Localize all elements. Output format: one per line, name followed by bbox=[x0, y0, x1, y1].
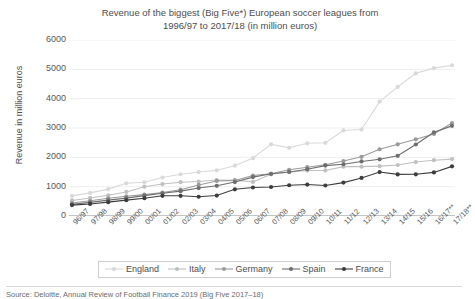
data-point bbox=[197, 170, 201, 174]
footnote-text: Source: Deloitte, Annual Review of Footb… bbox=[6, 290, 462, 299]
data-point bbox=[269, 172, 273, 176]
series-france bbox=[70, 164, 454, 207]
data-point bbox=[341, 128, 345, 132]
data-point bbox=[233, 180, 237, 184]
y-tick-label: 4000 bbox=[20, 93, 66, 103]
data-point bbox=[124, 181, 128, 185]
data-point bbox=[106, 200, 110, 204]
data-point bbox=[414, 142, 418, 146]
legend-swatch-icon bbox=[168, 265, 186, 273]
legend-label: Spain bbox=[303, 264, 326, 274]
footer-divider bbox=[6, 286, 462, 287]
data-point bbox=[178, 180, 182, 184]
data-point bbox=[359, 127, 363, 131]
legend-label: France bbox=[356, 264, 384, 274]
data-point bbox=[251, 180, 255, 184]
y-tick-label: 5000 bbox=[20, 63, 66, 73]
y-tick-label: 0 bbox=[20, 210, 66, 220]
data-point bbox=[378, 164, 382, 168]
data-point bbox=[88, 191, 92, 195]
chart-title-line-1: Revenue of the biggest (Big Five*) Europ… bbox=[50, 6, 430, 19]
data-point bbox=[341, 181, 345, 185]
data-point bbox=[396, 163, 400, 167]
data-point bbox=[287, 183, 291, 187]
data-point bbox=[215, 184, 219, 188]
legend-swatch-icon bbox=[282, 265, 300, 273]
chart-title: Revenue of the biggest (Big Five*) Europ… bbox=[50, 6, 430, 32]
data-point bbox=[251, 175, 255, 179]
legend-item-germany[interactable]: Germany bbox=[215, 264, 273, 274]
data-point bbox=[287, 170, 291, 174]
series-line bbox=[72, 65, 452, 196]
data-point bbox=[178, 194, 182, 198]
data-point bbox=[287, 146, 291, 150]
data-point bbox=[305, 182, 309, 186]
data-point bbox=[70, 194, 74, 198]
data-point bbox=[269, 142, 273, 146]
x-axis-tick-labels: 96/9797/9898/9999/0000/0101/0202/0303/04… bbox=[69, 218, 459, 258]
data-point bbox=[197, 195, 201, 199]
data-point bbox=[70, 203, 74, 207]
data-point bbox=[233, 164, 237, 168]
data-point bbox=[323, 168, 327, 172]
data-point bbox=[432, 158, 436, 162]
series-line bbox=[72, 159, 452, 200]
data-point bbox=[450, 124, 454, 128]
legend-item-spain[interactable]: Spain bbox=[282, 264, 326, 274]
data-point bbox=[414, 71, 418, 75]
series-canvas bbox=[69, 40, 455, 216]
data-point bbox=[378, 147, 382, 151]
chart-title-line-2: 1996/97 to 2017/18 (in million euros) bbox=[50, 19, 430, 32]
data-point bbox=[323, 164, 327, 168]
data-point bbox=[450, 164, 454, 168]
chart-legend: EnglandItalyGermanySpainFrance bbox=[98, 261, 391, 278]
data-point bbox=[359, 159, 363, 163]
y-tick-label: 3000 bbox=[20, 122, 66, 132]
data-point bbox=[160, 175, 164, 179]
data-point bbox=[197, 186, 201, 190]
data-point bbox=[178, 189, 182, 193]
legend-label: England bbox=[126, 264, 159, 274]
data-point bbox=[142, 196, 146, 200]
plot-area bbox=[69, 40, 455, 216]
data-point bbox=[178, 172, 182, 176]
data-point bbox=[323, 183, 327, 187]
y-tick-label: 6000 bbox=[20, 34, 66, 44]
y-tick-label: 2000 bbox=[20, 151, 66, 161]
data-point bbox=[414, 137, 418, 141]
data-point bbox=[414, 172, 418, 176]
data-point bbox=[432, 66, 436, 70]
y-axis-tick-labels: 0100020003000400050006000 bbox=[14, 40, 66, 216]
legend-item-italy[interactable]: Italy bbox=[168, 264, 206, 274]
data-point bbox=[359, 176, 363, 180]
data-point bbox=[160, 182, 164, 186]
data-point bbox=[378, 100, 382, 104]
legend-swatch-icon bbox=[105, 265, 123, 273]
data-point bbox=[251, 156, 255, 160]
series-line bbox=[72, 166, 452, 205]
y-tick-label: 1000 bbox=[20, 181, 66, 191]
legend-item-england[interactable]: England bbox=[105, 264, 159, 274]
data-point bbox=[142, 185, 146, 189]
legend-swatch-icon bbox=[215, 265, 233, 273]
legend-swatch-icon bbox=[335, 265, 353, 273]
data-point bbox=[450, 157, 454, 161]
data-point bbox=[233, 187, 237, 191]
data-point bbox=[432, 170, 436, 174]
data-point bbox=[396, 172, 400, 176]
legend-label: Italy bbox=[189, 264, 206, 274]
legend-item-france[interactable]: France bbox=[335, 264, 384, 274]
data-point bbox=[341, 162, 345, 166]
data-point bbox=[215, 168, 219, 172]
data-point bbox=[124, 190, 128, 194]
data-point bbox=[215, 193, 219, 197]
data-point bbox=[160, 194, 164, 198]
data-point bbox=[251, 185, 255, 189]
data-point bbox=[450, 63, 454, 67]
data-point bbox=[414, 160, 418, 164]
data-point bbox=[305, 167, 309, 171]
data-point bbox=[305, 141, 309, 145]
data-point bbox=[432, 130, 436, 134]
data-point bbox=[396, 85, 400, 89]
